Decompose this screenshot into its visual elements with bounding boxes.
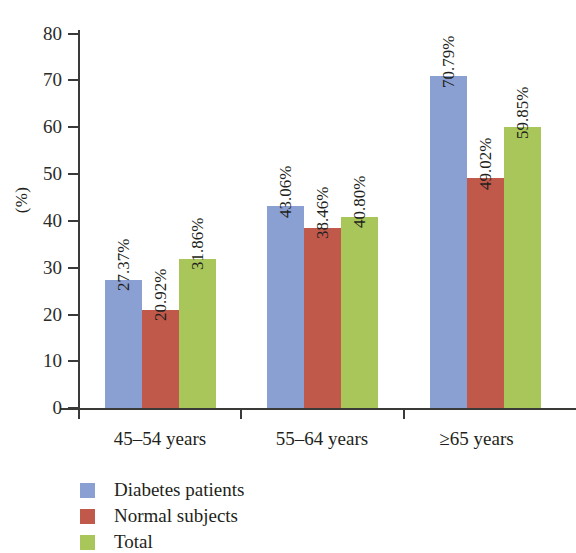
bar-g1-normal-subjects[interactable] (304, 228, 341, 408)
x-tick-mark-start (78, 408, 80, 419)
bar-g0-diabetes-patients[interactable] (105, 280, 142, 408)
x-axis-line (60, 408, 576, 410)
legend-swatch-icon-normal-subjects (80, 509, 95, 524)
bar-label-g1-total: 40.80% (351, 176, 368, 228)
y-tick-label-40: 40 (0, 211, 62, 230)
bar-g1-total[interactable] (341, 217, 378, 408)
chart-legend: Diabetes patients Normal subjects Total (80, 478, 244, 553)
bar-label-g0-diabetes-patients: 27.37% (115, 239, 132, 291)
y-tick-label-80: 80 (0, 24, 62, 43)
x-category-label-1: 55–64 years (241, 428, 403, 450)
bar-label-g1-normal-subjects: 38.46% (314, 187, 331, 239)
x-category-label-0: 45–54 years (79, 428, 241, 450)
y-tick-label-70: 70 (0, 70, 62, 89)
legend-item-normal-subjects[interactable]: Normal subjects (80, 504, 244, 528)
bar-g1-diabetes-patients[interactable] (267, 206, 304, 408)
y-tick-label-50: 50 (0, 164, 62, 183)
y-tick-label-60: 60 (0, 117, 62, 136)
legend-label-total: Total (114, 532, 153, 552)
y-tick-label-0: 0 (0, 398, 62, 417)
x-tick-mark-2 (403, 408, 405, 419)
y-tick-label-30: 30 (0, 258, 62, 277)
bar-g0-total[interactable] (179, 259, 216, 408)
legend-label-normal-subjects: Normal subjects (114, 506, 238, 526)
plot-area: 27.37% 20.92% 31.86% 43.06% 38.46% 40.80… (78, 33, 548, 408)
bar-label-g0-total: 31.86% (189, 218, 206, 270)
bar-chart-figure: (%) 0 10 20 30 40 50 60 70 80 27.37% 20.… (0, 0, 576, 553)
bar-g2-total[interactable] (504, 127, 541, 408)
y-tick-label-10: 10 (0, 351, 62, 370)
bar-label-g2-normal-subjects: 49.02% (477, 138, 494, 190)
legend-label-diabetes-patients: Diabetes patients (114, 480, 244, 500)
y-tick-label-20: 20 (0, 305, 62, 324)
legend-swatch-icon-diabetes-patients (80, 483, 95, 498)
legend-swatch-icon-total (80, 535, 95, 550)
bar-label-g2-diabetes-patients: 70.79% (440, 36, 457, 88)
x-category-label-2: ≥65 years (404, 428, 549, 450)
bar-label-g0-normal-subjects: 20.92% (152, 269, 169, 321)
bar-label-g1-diabetes-patients: 43.06% (277, 166, 294, 218)
legend-item-total[interactable]: Total (80, 530, 244, 553)
bar-g0-normal-subjects[interactable] (142, 310, 179, 408)
bar-g2-normal-subjects[interactable] (467, 178, 504, 408)
legend-item-diabetes-patients[interactable]: Diabetes patients (80, 478, 244, 502)
bar-label-g2-total: 59.85% (514, 87, 531, 139)
bar-g2-diabetes-patients[interactable] (430, 76, 467, 408)
x-tick-mark-1 (240, 408, 242, 419)
